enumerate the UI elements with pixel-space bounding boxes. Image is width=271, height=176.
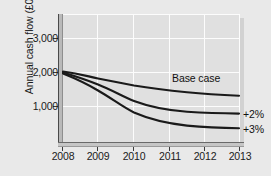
x-tick-label-2012: 2012 xyxy=(188,150,222,162)
x-tick-label-2008: 2008 xyxy=(46,150,80,162)
x-tick-label-2009: 2009 xyxy=(81,150,115,162)
series-label-base-case: Base case xyxy=(172,72,220,84)
x-tick-label-2013: 2013 xyxy=(223,150,257,162)
y-tick-label-1000: 1,000 xyxy=(24,100,58,112)
y-tick-label-2000: 2,000 xyxy=(24,66,58,78)
x-tick-label-2010: 2010 xyxy=(117,150,151,162)
y-tick-label-3000: 3,000 xyxy=(24,32,58,44)
line-chart-figure: Annual cash flow (£000) 3,000 2,000 1,00… xyxy=(0,0,271,176)
chart-screenshot: Annual cash flow (£000) 3,000 2,000 1,00… xyxy=(0,0,271,176)
series-label-plus-2: +2% xyxy=(243,108,264,120)
series-label-plus-3: +3% xyxy=(243,123,264,135)
x-tick-label-2011: 2011 xyxy=(153,150,187,162)
x-axis-tick-labels: 2008 2009 2010 2011 2012 2013 xyxy=(0,150,271,168)
